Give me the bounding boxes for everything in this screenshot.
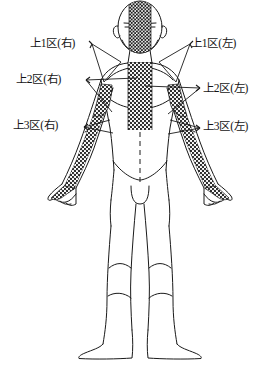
groin (131, 186, 149, 204)
leader-upper-zone-1-right (92, 44, 121, 82)
left-leg-inner (131, 204, 136, 330)
label-upper-zone-2-right: 上2区(右) (16, 74, 61, 86)
leader-upper-zone-1-left (159, 44, 190, 82)
label-upper-zone-1-left: 上1区(左) (191, 38, 236, 50)
left-calf (108, 293, 131, 298)
left-knee (109, 264, 131, 269)
right-foot (147, 330, 201, 359)
hip-right (169, 200, 170, 226)
label-upper-zone-2-left: 上2区(左) (203, 83, 248, 95)
right-leg-inner (144, 204, 149, 330)
waist-left (111, 170, 114, 200)
body-figure-svg (0, 0, 270, 366)
right-calf (149, 293, 172, 298)
label-upper-zone-1-right: 上1区(右) (30, 38, 75, 50)
head-midline-band (129, 1, 151, 53)
label-upper-zone-3-left: 上3区(左) (203, 121, 248, 133)
right-leg-outer (169, 226, 177, 344)
shoulder-right-line (152, 63, 179, 80)
neck-right (150, 50, 152, 63)
shoulder-left-line (101, 63, 128, 80)
leader-arrow-1-right (89, 41, 92, 48)
hip-left (110, 200, 111, 226)
left-hand-band (205, 186, 229, 200)
neck-left (128, 50, 130, 63)
waist-right (166, 170, 169, 200)
label-upper-zone-3-right: 上3区(右) (13, 120, 58, 132)
torso-midline-band (128, 62, 152, 132)
anatomical-zone-diagram: 上1区(右) 上2区(右) 上3区(右) 上1区(左) 上2区(左) 上3区(左… (0, 0, 270, 366)
right-hand-band (51, 186, 75, 200)
left-leg-outer (103, 226, 111, 344)
left-foot (79, 330, 133, 359)
right-knee (149, 264, 171, 269)
